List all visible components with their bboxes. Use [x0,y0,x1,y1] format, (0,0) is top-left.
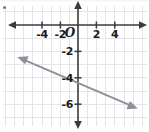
plotted-line [0,0,149,132]
x-tick-label-2: 2 [93,29,100,40]
origin-label: O [65,27,75,39]
x-tick-label-4: 4 [111,29,118,40]
y-tick-label--2: -2 [56,46,73,57]
coordinate-plane: -4 -2 2 4 O -2 -4 -6 [0,0,149,132]
scan-speck [3,6,6,9]
y-tick-label--4: -4 [56,72,73,83]
x-tick-label--4: -4 [36,29,48,40]
y-tick-label--6: -6 [56,99,73,110]
scan-edge-shading [0,0,149,2]
graph-screenshot: -4 -2 2 4 O -2 -4 -6 [0,0,149,132]
line-segment [24,60,131,106]
